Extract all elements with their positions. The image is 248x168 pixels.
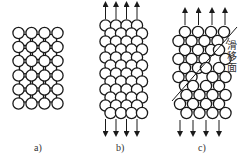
atom-circle xyxy=(52,70,63,81)
atom-circle xyxy=(126,107,137,118)
slip-plane-label: 滑移面 xyxy=(226,40,238,73)
atom-circle xyxy=(52,41,63,52)
panel-c-label: c) xyxy=(198,142,206,153)
panel-a-label: a) xyxy=(34,142,42,153)
atom-circle xyxy=(39,70,50,81)
atom-circle xyxy=(136,107,147,118)
slip-plane-char: 滑 xyxy=(226,40,238,51)
atom-circle xyxy=(39,41,50,52)
atom-circle xyxy=(39,27,50,38)
atom-circle xyxy=(52,98,63,109)
atom-circle xyxy=(26,84,37,95)
atom-circle xyxy=(26,70,37,81)
atom-circle xyxy=(13,41,24,52)
atom-circle xyxy=(181,107,192,118)
atom-circle xyxy=(105,107,116,118)
atom-circle xyxy=(39,98,50,109)
atom-circle xyxy=(115,107,126,118)
atom-circle xyxy=(13,98,24,109)
slip-plane-char: 移 xyxy=(226,51,238,62)
slip-plane-char: 面 xyxy=(226,62,238,73)
panel-b-lattice xyxy=(100,4,148,134)
atom-circle xyxy=(13,55,24,66)
panel-b-label: b) xyxy=(116,142,124,153)
atom-circle xyxy=(39,84,50,95)
atom-circle xyxy=(26,98,37,109)
atom-circle xyxy=(13,84,24,95)
atom-circle xyxy=(13,27,24,38)
atom-circle xyxy=(13,70,24,81)
atom-circle xyxy=(26,55,37,66)
atom-circle xyxy=(52,84,63,95)
atom-circle xyxy=(26,27,37,38)
atom-circle xyxy=(26,41,37,52)
atom-circle xyxy=(52,27,63,38)
panel-a-lattice xyxy=(13,27,63,109)
atom-circle xyxy=(52,55,63,66)
atom-circle xyxy=(39,55,50,66)
atom-circle xyxy=(220,107,231,118)
atom-circle xyxy=(194,107,205,118)
atom-circle xyxy=(207,107,218,118)
